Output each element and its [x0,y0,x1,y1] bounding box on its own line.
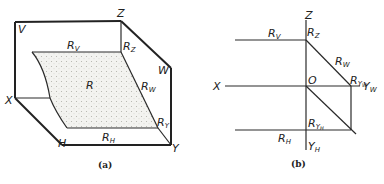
label-r-yh: RYH [308,117,324,131]
label-rh: RH [278,132,292,146]
caption-b: (b) [291,159,306,169]
label-v: V [18,23,27,36]
label-ry: RY [157,116,170,130]
label-o: O [308,74,317,87]
label-rh: RH [102,131,116,145]
label-rv: RV [268,27,282,41]
v-plane-top [15,21,121,22]
figure-b-orthographic: Z X O RV RZ RW RYW YW RYH RH YH (b) [212,9,378,169]
label-rv: RV [67,39,81,53]
label-rw: RW [335,55,351,69]
y-axis-edge [158,128,171,145]
label-rw: RW [141,80,157,94]
caption-a: (a) [98,160,112,170]
label-rz: RZ [123,40,136,54]
projection-diagram: V Z W X H Y R RV RZ RW RY RH (a) Z X O R… [0,0,384,184]
label-z: Z [116,7,125,20]
label-z: Z [304,9,313,22]
label-x: X [212,80,221,93]
label-yw: YW [363,80,378,94]
label-yh: YH [308,140,321,154]
label-h: H [58,137,66,150]
label-w: W [158,64,170,77]
label-r: R [86,79,94,92]
label-y: Y [172,142,180,155]
label-x: X [4,94,13,107]
figure-a-isometric: V Z W X H Y R RV RZ RW RY RH (a) [4,7,180,170]
label-rz: RZ [307,26,320,40]
